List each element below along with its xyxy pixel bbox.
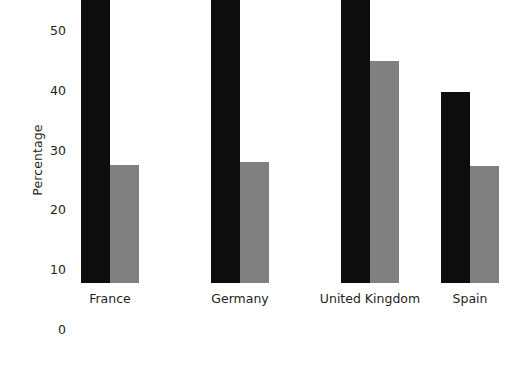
bar-united-kingdom-series-2	[370, 61, 399, 283]
x-axis-label: France	[40, 290, 180, 308]
y-tick-label: 20	[40, 202, 66, 218]
plot-area: FranceGermanyUnited KingdomSpain	[74, 8, 498, 330]
bar-spain-series-1	[441, 92, 470, 283]
bar-germany-series-2	[240, 162, 269, 283]
y-tick-label: 50	[40, 23, 66, 39]
bar-group	[341, 0, 399, 283]
bar-group	[211, 0, 269, 283]
bar-france-series-1	[81, 0, 110, 283]
bar-france-series-2	[110, 165, 139, 283]
bar-group	[81, 0, 139, 283]
y-tick-label: 40	[40, 83, 66, 99]
x-axis-label: Spain	[400, 290, 506, 308]
bar-group	[441, 0, 499, 283]
bar-united-kingdom-series-1	[341, 0, 370, 283]
x-axis-label: Germany	[170, 290, 310, 308]
bar-germany-series-1	[211, 0, 240, 283]
y-tick-label: 0	[40, 322, 66, 338]
y-tick-label: 30	[40, 143, 66, 159]
y-tick-label: 10	[40, 262, 66, 278]
bar-chart: Percentage 01020304050 FranceGermanyUnit…	[0, 0, 506, 377]
bar-spain-series-2	[470, 166, 499, 283]
y-axis-ticks: 01020304050	[36, 0, 66, 377]
